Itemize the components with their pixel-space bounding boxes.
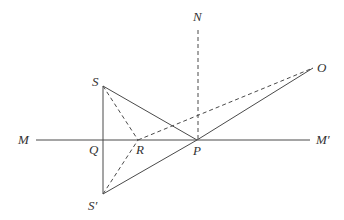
- label-s: S: [92, 74, 99, 89]
- label-r: R: [135, 142, 144, 157]
- label-m-prime: M′: [315, 132, 330, 147]
- diagram-canvas: N O S M M′ Q R P S′: [0, 0, 344, 220]
- label-o: O: [317, 60, 327, 75]
- label-q: Q: [89, 142, 99, 157]
- dashed-line-s-prime-r: [103, 140, 138, 194]
- dashed-line-r-o: [138, 68, 313, 140]
- line-s-prime-p: [103, 140, 197, 194]
- reflection-diagram: N O S M M′ Q R P S′: [0, 0, 344, 220]
- line-p-o: [197, 68, 313, 140]
- dashed-line-s-r: [103, 86, 138, 140]
- line-s-p: [103, 86, 197, 140]
- label-n: N: [192, 9, 203, 24]
- label-m: M: [17, 132, 30, 147]
- label-s-prime: S′: [88, 198, 98, 213]
- label-p: P: [192, 143, 201, 158]
